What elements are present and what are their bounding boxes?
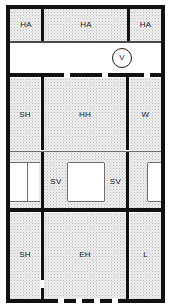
wall-sv-partition-right — [126, 152, 129, 211]
wall-middle-sv-separator — [10, 151, 161, 152]
wall-eh-l-partition — [126, 208, 129, 303]
wall-sh-eh-partition — [41, 208, 44, 280]
wall-sh-hh-partition — [41, 73, 44, 150]
room-sv-void-left-inner — [28, 163, 39, 201]
room-sv-void-right — [148, 163, 161, 201]
room-label: L — [143, 251, 148, 259]
wall-outer-bottom — [6, 299, 165, 303]
wall-sv-partition-left — [41, 152, 44, 211]
room-hh: HH — [44, 78, 126, 151]
room-label: SV — [50, 178, 61, 186]
room-label: HA — [140, 21, 152, 29]
wall-ha-divider-left — [41, 5, 44, 43]
vent-symbol-label: V — [119, 54, 124, 62]
wall-sv-void-line-b — [10, 162, 40, 163]
wall-sv-bottom-seg-2 — [44, 208, 165, 212]
wall-sv-void-line-a — [27, 163, 28, 201]
wall-sv-void-line-j — [148, 201, 161, 202]
wall-ha-divider-right — [127, 5, 130, 43]
wall-sv-bottom-seg-1 — [6, 208, 44, 212]
door-gap-bottom-3 — [94, 298, 100, 304]
room-ha-center: HA — [44, 8, 128, 41]
room-label: EH — [79, 251, 91, 259]
door-gap-bottom-1 — [58, 298, 64, 304]
wall-corridor-bottom-seg-1 — [6, 73, 64, 77]
room-l: L — [130, 213, 161, 299]
wall-outer-right — [161, 5, 165, 303]
room-sv-left: SV — [45, 163, 67, 201]
room-label: HH — [79, 111, 91, 119]
room-label: HA — [20, 21, 32, 29]
wall-outer-top — [6, 5, 165, 9]
wall-outer-left — [6, 5, 10, 303]
door-gap-bottom-2 — [76, 298, 82, 304]
room-sv-void-center — [68, 163, 104, 201]
room-sv-void-left — [10, 163, 27, 201]
room-label: HA — [80, 21, 92, 29]
door-gap-bottom-4 — [112, 298, 118, 304]
wall-sv-void-line-c — [10, 201, 40, 202]
corridor-band — [10, 41, 161, 74]
room-ha-right: HA — [130, 8, 161, 41]
room-label: W — [142, 111, 150, 119]
wall-sv-void-line-g — [68, 201, 104, 202]
wall-sh-eh-partition-stub — [41, 288, 44, 303]
wall-ha-bottom — [10, 41, 161, 43]
room-ha-left: HA — [10, 8, 42, 41]
wall-sv-void-line-f — [68, 162, 104, 163]
wall-corridor-bottom-seg-4 — [150, 73, 165, 77]
wall-sv-void-line-h — [147, 163, 148, 201]
room-label: SH — [19, 111, 31, 119]
room-label: SV — [110, 178, 121, 186]
vent-symbol-icon: V — [112, 48, 132, 68]
room-sv-right: SV — [105, 163, 126, 201]
wall-sv-void-line-e — [104, 163, 105, 201]
room-sh-upper: SH — [10, 78, 40, 151]
wall-hh-w-partition — [126, 73, 129, 150]
wall-corridor-bottom-seg-2 — [70, 73, 102, 77]
wall-sv-void-line-i — [148, 162, 161, 163]
room-label: SH — [19, 251, 31, 259]
floor-plan-diagram: HA HA HA SH HH W SV SV SH EH L — [0, 0, 170, 308]
room-sh-lower: SH — [10, 213, 40, 299]
room-w: W — [130, 78, 161, 151]
room-eh: EH — [44, 213, 126, 299]
wall-sv-void-line-d — [67, 163, 68, 201]
